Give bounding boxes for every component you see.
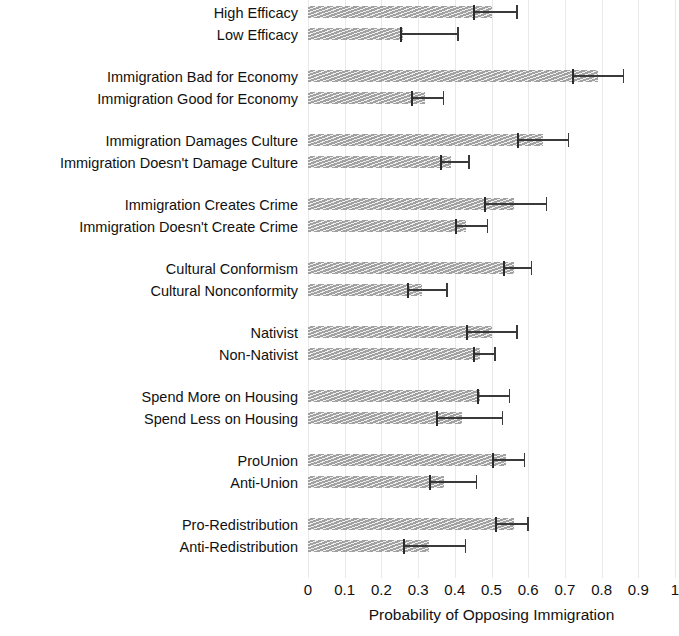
- confidence-interval-cap-high: [468, 155, 470, 169]
- chart-row: Low Efficacy: [308, 24, 675, 46]
- confidence-interval-cap-low: [411, 91, 413, 106]
- x-tick-label: 0.2: [371, 580, 392, 600]
- confidence-interval-cap-high: [465, 539, 467, 553]
- confidence-interval-cap-low: [429, 475, 431, 490]
- row-category-label: Pro-Redistribution: [0, 514, 298, 536]
- confidence-interval-cap-low: [477, 389, 479, 404]
- confidence-interval-line: [403, 545, 465, 547]
- confidence-interval-line: [455, 225, 488, 227]
- chart-row: Immigration Damages Culture: [308, 130, 675, 152]
- confidence-interval-cap-low: [572, 69, 574, 84]
- value-bar: [308, 476, 444, 488]
- value-bar: [308, 454, 506, 466]
- confidence-interval-cap-low: [403, 539, 405, 554]
- chart-row: Immigration Good for Economy: [308, 88, 675, 110]
- x-tick-label: 0.4: [444, 580, 465, 600]
- row-category-label: Anti-Union: [0, 472, 298, 494]
- x-axis: 00.10.20.30.40.50.60.70.80.91: [308, 580, 675, 602]
- confidence-interval-cap-high: [494, 347, 496, 361]
- confidence-interval-line: [411, 97, 444, 99]
- plot-area: High EfficacyLow EfficacyImmigration Bad…: [308, 0, 675, 578]
- value-bar: [308, 6, 492, 18]
- chart-row: High Efficacy: [308, 2, 675, 24]
- row-category-label: Cultural Conformism: [0, 258, 298, 280]
- confidence-interval-cap-high: [546, 197, 548, 211]
- confidence-interval-line: [466, 331, 517, 333]
- chart-row: Nativist: [308, 322, 675, 344]
- confidence-interval-line: [517, 139, 568, 141]
- confidence-interval-cap-high: [524, 453, 526, 467]
- row-category-label: Spend More on Housing: [0, 386, 298, 408]
- confidence-interval-line: [473, 353, 495, 355]
- gridline: [675, 0, 676, 578]
- value-bar: [308, 390, 480, 402]
- confidence-interval-cap-high: [446, 283, 448, 297]
- x-tick-label: 0.6: [518, 580, 539, 600]
- confidence-interval-line: [436, 417, 502, 419]
- chart-row: Immigration Bad for Economy: [308, 66, 675, 88]
- confidence-interval-line: [572, 75, 623, 77]
- confidence-interval-cap-low: [473, 5, 475, 20]
- confidence-interval-cap-high: [487, 219, 489, 233]
- confidence-interval-cap-high: [457, 27, 459, 41]
- confidence-interval-cap-low: [517, 133, 519, 148]
- chart-row: Spend Less on Housing: [308, 408, 675, 430]
- row-category-label: Low Efficacy: [0, 24, 298, 46]
- confidence-interval-cap-low: [436, 411, 438, 426]
- value-bar: [308, 134, 543, 146]
- confidence-interval-cap-high: [568, 133, 570, 147]
- row-category-label: ProUnion: [0, 450, 298, 472]
- confidence-interval-cap-low: [492, 453, 494, 468]
- confidence-interval-line: [495, 523, 528, 525]
- confidence-interval-cap-high: [531, 261, 533, 275]
- chart-row: Immigration Creates Crime: [308, 194, 675, 216]
- value-bar: [308, 262, 514, 274]
- x-tick-label: 0.9: [628, 580, 649, 600]
- row-category-label: Immigration Doesn't Create Crime: [0, 216, 298, 238]
- confidence-interval-line: [492, 459, 525, 461]
- confidence-interval-line: [473, 11, 517, 13]
- value-bar: [308, 326, 492, 338]
- x-axis-title: Probability of Opposing Immigration: [308, 606, 675, 624]
- confidence-interval-cap-high: [476, 475, 478, 489]
- chart-row: Cultural Nonconformity: [308, 280, 675, 302]
- confidence-interval-cap-low: [473, 347, 475, 362]
- value-bar: [308, 70, 598, 82]
- chart-row: Spend More on Housing: [308, 386, 675, 408]
- chart-row: Non-Nativist: [308, 344, 675, 366]
- confidence-interval-cap-high: [443, 91, 445, 105]
- x-tick-label: 0.5: [481, 580, 502, 600]
- confidence-interval-cap-low: [503, 261, 505, 276]
- value-bar: [308, 28, 403, 40]
- chart-row: Anti-Union: [308, 472, 675, 494]
- x-tick-label: 0.8: [591, 580, 612, 600]
- row-category-label: Non-Nativist: [0, 344, 298, 366]
- row-category-label: Spend Less on Housing: [0, 408, 298, 430]
- chart-row: Cultural Conformism: [308, 258, 675, 280]
- confidence-interval-line: [429, 481, 477, 483]
- confidence-interval-cap-high: [509, 389, 511, 403]
- x-tick-label: 0.3: [408, 580, 429, 600]
- chart-row: Anti-Redistribution: [308, 536, 675, 558]
- confidence-interval-line: [503, 267, 532, 269]
- row-category-label: Immigration Bad for Economy: [0, 66, 298, 88]
- confidence-interval-cap-low: [495, 517, 497, 532]
- value-bar: [308, 92, 425, 104]
- x-tick-label: 0: [304, 580, 312, 600]
- row-category-label: Immigration Damages Culture: [0, 130, 298, 152]
- confidence-interval-line: [400, 33, 459, 35]
- value-bar: [308, 220, 466, 232]
- confidence-interval-cap-high: [623, 69, 625, 83]
- confidence-interval-cap-low: [407, 283, 409, 298]
- confidence-interval-cap-low: [466, 325, 468, 340]
- chart-row: Immigration Doesn't Damage Culture: [308, 152, 675, 174]
- value-bar: [308, 156, 451, 168]
- confidence-interval-cap-low: [484, 197, 486, 212]
- confidence-interval-cap-low: [400, 27, 402, 42]
- confidence-interval-cap-low: [455, 219, 457, 234]
- x-tick-label: 1: [671, 580, 679, 600]
- row-category-label: Immigration Creates Crime: [0, 194, 298, 216]
- row-category-label: Immigration Good for Economy: [0, 88, 298, 110]
- confidence-interval-cap-high: [516, 5, 518, 19]
